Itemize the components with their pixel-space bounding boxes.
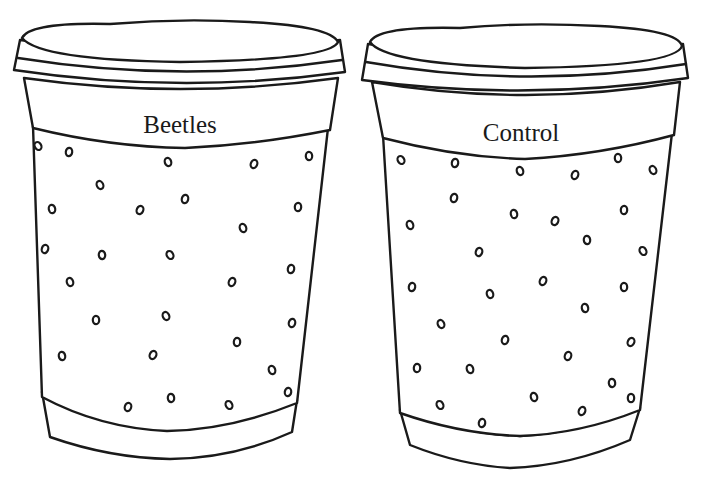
beetles-cup (14, 20, 345, 459)
beetles-cup-lid (22, 20, 338, 62)
air-hole (628, 394, 634, 402)
air-hole (581, 303, 589, 312)
air-hole (284, 387, 292, 396)
air-hole (234, 338, 241, 347)
air-hole (478, 418, 486, 427)
air-hole (516, 166, 524, 176)
air-hole (93, 316, 100, 325)
air-hole (58, 351, 66, 360)
air-hole (450, 193, 458, 203)
air-hole (621, 283, 628, 292)
air-hole (615, 154, 622, 163)
beetles-label: Beetles (143, 111, 217, 139)
air-hole (621, 206, 628, 215)
air-hole (414, 364, 421, 373)
air-hole (451, 158, 458, 167)
air-hole (501, 335, 509, 345)
air-hole (295, 203, 302, 212)
air-hole (164, 157, 172, 167)
air-hole (48, 204, 56, 213)
control-label: Control (483, 119, 559, 147)
air-hole (306, 152, 313, 161)
air-hole (530, 392, 538, 402)
air-hole (287, 264, 295, 273)
control-cup (362, 24, 688, 468)
air-hole (66, 277, 74, 287)
air-hole (98, 250, 105, 259)
air-hole (408, 282, 416, 291)
air-hole (486, 289, 494, 299)
beetles-cup-body (33, 126, 328, 431)
air-hole (65, 147, 72, 156)
air-hole (167, 394, 174, 403)
air-hole (181, 194, 189, 204)
air-hole (608, 379, 615, 388)
air-hole (510, 209, 518, 218)
air-hole (583, 235, 590, 244)
control-cup-body (383, 133, 672, 436)
air-hole (288, 318, 296, 328)
